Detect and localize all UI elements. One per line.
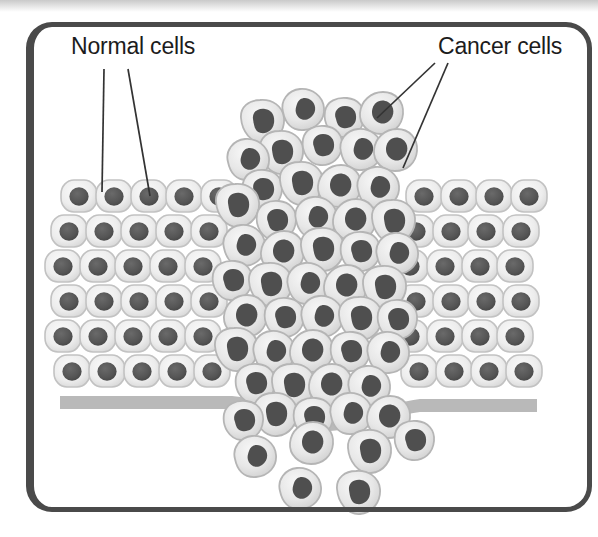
label-normal-cells: Normal cells (71, 33, 195, 60)
figure-frame-border (26, 22, 592, 512)
label-cancer-cells: Cancer cells (438, 33, 562, 60)
figure-root: Normal cells Cancer cells (0, 0, 598, 537)
